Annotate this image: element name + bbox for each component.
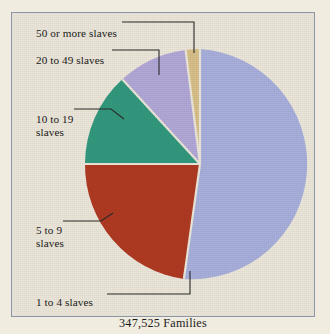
slice-label-10-to-19: 10 to 19 slaves xyxy=(36,113,73,138)
chart-figure: 50 or more slaves 20 to 49 slaves 10 to … xyxy=(0,0,330,334)
pie-slice-5-to-9[interactable] xyxy=(85,164,200,279)
pie-slice-1-to-4[interactable] xyxy=(184,49,307,279)
slice-label-20-to-49: 20 to 49 slaves xyxy=(36,54,104,67)
chart-caption: 347,525 Families xyxy=(12,316,314,331)
leader-line-50-or-more xyxy=(122,22,194,53)
slice-label-5-to-9: 5 to 9 slaves xyxy=(36,224,64,249)
slice-label-50-or-more: 50 or more slaves xyxy=(36,27,117,40)
slice-label-1-to-4: 1 to 4 slaves xyxy=(36,296,93,309)
figure-frame: 50 or more slaves 20 to 49 slaves 10 to … xyxy=(11,12,315,317)
